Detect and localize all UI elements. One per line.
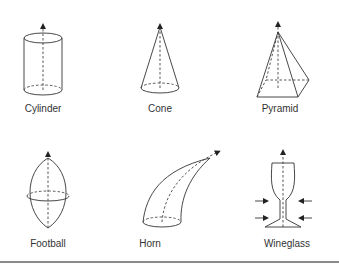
pyramid-shape: Pyramid: [257, 24, 309, 114]
cone-shape: Cone: [141, 26, 179, 114]
cylinder-shape: Cylinder: [24, 26, 62, 114]
horn-base-front: [143, 222, 181, 227]
shapes-diagram: Cylinder Cone Pyramid Football: [0, 0, 339, 267]
cone-right-edge: [160, 27, 179, 88]
cone-label: Cone: [148, 103, 172, 114]
horn-axis-arrow-icon: [162, 152, 218, 222]
cylinder-label: Cylinder: [25, 103, 62, 114]
pyramid-edge-back-left: [266, 32, 278, 80]
pyramid-edge-front-left: [257, 32, 278, 97]
cone-left-edge: [141, 27, 160, 88]
wineglass-label: Wineglass: [264, 238, 310, 249]
football-label: Football: [30, 238, 66, 249]
horn-left-edge: [143, 158, 210, 222]
wineglass-shape: Wineglass: [255, 152, 312, 249]
horn-label: Horn: [139, 238, 161, 249]
football-shape: Football: [27, 154, 69, 249]
cone-base-front: [141, 88, 179, 93]
horn-right-edge: [181, 158, 210, 222]
horn-shape: Horn: [139, 152, 218, 249]
cylinder-base-front: [24, 90, 62, 95]
pyramid-edge-front-right: [278, 32, 298, 97]
bottom-rule: [0, 261, 339, 263]
pyramid-base-right: [298, 80, 309, 97]
pyramid-edge-back-right: [278, 32, 309, 80]
pyramid-label: Pyramid: [262, 103, 299, 114]
